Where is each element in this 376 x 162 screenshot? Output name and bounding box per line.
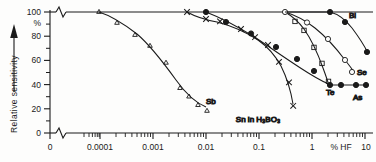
marker-filled-circle xyxy=(223,19,228,24)
curve-label-sb: Sb xyxy=(206,97,216,106)
data-curves: Sb Sn in H₃BO₃ xyxy=(97,9,370,124)
x-axis-tick-labels: 0 0.0001 0.001 0.01 0.1 1 % HF 10 xyxy=(48,142,371,152)
y-tick-label-80: 80 xyxy=(32,31,42,41)
y-tick-label-60: 60 xyxy=(32,55,42,65)
marker-filled-circle xyxy=(363,82,368,87)
marker-cross xyxy=(286,80,292,86)
marker-filled-circle xyxy=(248,31,253,36)
x-axis-title: % HF xyxy=(330,142,351,152)
y-tick-label-0: 0 xyxy=(36,128,41,138)
y-tick-label-40: 40 xyxy=(32,80,42,90)
marker-open-circle xyxy=(342,57,347,62)
marker-filled-circle xyxy=(294,56,299,61)
y-axis-ticks: 0 20 40 60 80 100 % xyxy=(27,7,50,138)
marker-filled-circle xyxy=(203,9,208,14)
series-sn-line xyxy=(187,12,293,104)
marker-open-triangle xyxy=(164,60,169,64)
series-as-line xyxy=(206,12,366,85)
y-axis-label-group: Relative sensitivity xyxy=(9,24,19,133)
marker-open-triangle xyxy=(196,103,201,107)
curve-label-bi: Bi xyxy=(349,11,356,20)
marker-filled-circle xyxy=(273,44,278,49)
curve-label-sn-in-h3bo3: Sn in H₃BO₃ xyxy=(236,115,280,124)
marker-filled-circle xyxy=(364,49,369,54)
series-sn-markers xyxy=(184,9,296,108)
y-tick-label-20: 20 xyxy=(32,104,42,114)
y-axis-title: Relative sensitivity xyxy=(9,55,19,133)
marker-filled-circle xyxy=(338,82,343,87)
sensitivity-vs-hf-chart: Relative sensitivity xyxy=(0,0,376,162)
y-axis-arrow-head xyxy=(10,24,18,38)
y-tick-label-100: 100 xyxy=(27,7,41,17)
marker-open-triangle xyxy=(97,9,102,13)
marker-open-circle xyxy=(304,20,309,25)
x-tick-label-0.01: 0.01 xyxy=(198,142,215,152)
marker-open-circle xyxy=(325,36,330,41)
marker-filled-circle xyxy=(353,82,358,87)
marker-open-circle xyxy=(349,69,354,74)
series-sb: Sb xyxy=(97,9,217,112)
x-tick-label-1: 1 xyxy=(310,142,315,152)
marker-filled-circle xyxy=(327,9,332,14)
x-axis-break-icon xyxy=(56,128,66,138)
top-frame-break-icon xyxy=(56,7,66,17)
marker-open-triangle xyxy=(133,32,138,36)
marker-filled-circle xyxy=(311,68,316,73)
x-tick-label-0: 0 xyxy=(48,142,53,152)
x-axis-ticks xyxy=(50,133,365,139)
marker-cross xyxy=(276,59,282,65)
y-axis-unit-label: % xyxy=(33,18,41,28)
series-sb-line xyxy=(99,12,206,107)
curve-label-se: Se xyxy=(357,68,367,77)
marker-filled-circle xyxy=(342,19,347,24)
marker-open-triangle xyxy=(178,86,183,90)
marker-open-triangle xyxy=(205,108,210,112)
curve-label-te: Te xyxy=(326,88,335,97)
x-tick-label-10: 10 xyxy=(361,142,371,152)
series-bi: Bi xyxy=(285,9,370,54)
x-tick-label-0.0001: 0.0001 xyxy=(87,142,113,152)
curve-label-as: As xyxy=(353,93,362,102)
x-tick-label-0.001: 0.001 xyxy=(142,142,164,152)
chart-figure: Relative sensitivity xyxy=(0,0,376,162)
x-tick-label-0.1: 0.1 xyxy=(253,142,265,152)
series-sb-markers xyxy=(97,9,210,112)
